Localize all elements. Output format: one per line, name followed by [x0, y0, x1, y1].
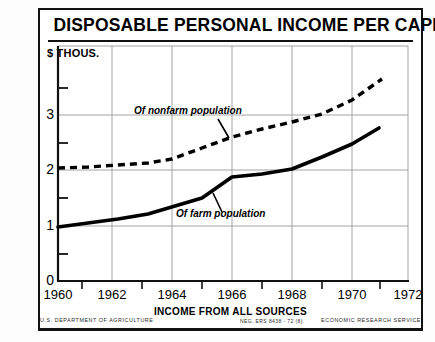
annotation-farm: Of farm population: [176, 208, 265, 219]
y-tick-label-1: 1: [32, 217, 54, 233]
x-tick-label-1966: 1966: [209, 287, 255, 302]
x-tick-label-1970: 1970: [329, 287, 375, 302]
x-tick-label-1962: 1962: [89, 287, 135, 302]
x-tick-label-1960: 1960: [35, 287, 81, 302]
x-tick-label-1968: 1968: [269, 287, 315, 302]
chart-page: DISPOSABLE PERSONAL INCOME PER CAPITA $ …: [0, 0, 435, 342]
footer-department: U.S. DEPARTMENT OF AGRICULTURE: [40, 317, 153, 323]
annotation-nonfarm: Of nonfarm population: [134, 105, 242, 116]
x-axis-title: INCOME FROM ALL SOURCES: [38, 306, 423, 317]
y-tick-label-0: 0: [32, 272, 54, 288]
footer-negative-number: NEG. ERS 8438 - 72 (8): [240, 318, 303, 324]
x-tick-label-1972: 1972: [385, 287, 431, 302]
footer: U.S. DEPARTMENT OF AGRICULTURE NEG. ERS …: [40, 317, 421, 329]
leader-line-nonfarm: [218, 119, 229, 138]
y-tick-label-2: 2: [32, 161, 54, 177]
y-tick-label-3: 3: [32, 106, 54, 122]
x-tick-label-1964: 1964: [149, 287, 195, 302]
footer-agency: ECONOMIC RESEARCH SERVICE: [321, 317, 421, 323]
